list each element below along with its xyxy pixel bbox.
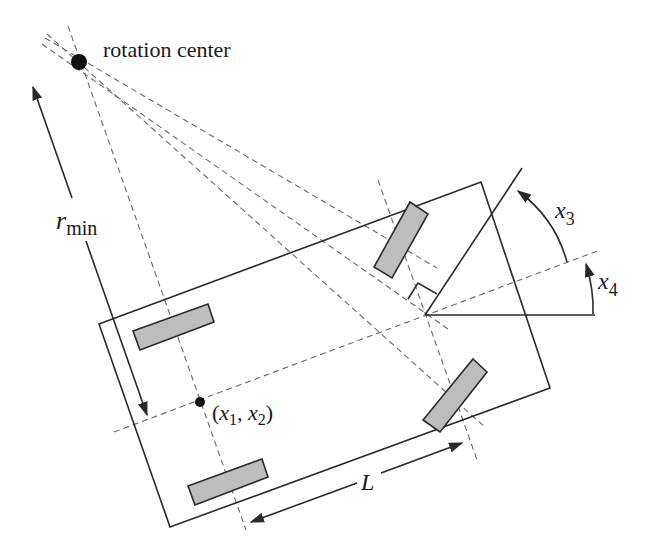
wheelbase-arrow-left	[251, 483, 357, 522]
steering-direction-line	[425, 168, 522, 315]
position-comma: ,	[237, 400, 248, 425]
position-label: (x1, x2)	[212, 400, 273, 428]
position-x2-sub: 2	[258, 411, 266, 428]
front-left-wheel-ray	[45, 38, 437, 268]
heading-angle-label: x4	[597, 268, 618, 300]
steering-angle-main: x	[554, 197, 566, 223]
position-close-paren: )	[266, 400, 273, 425]
position-x1: x	[218, 400, 229, 425]
construction-lines	[42, 26, 600, 530]
position-open-paren: (	[212, 400, 219, 425]
rotation-center-label: rotation center	[103, 37, 231, 62]
pivot-ray	[42, 44, 448, 329]
heading-angle-sub: 4	[609, 280, 618, 300]
steering-angle-label: x3	[554, 197, 575, 229]
heading-angle-arc	[586, 264, 593, 314]
r-min-label: rmin	[56, 206, 97, 239]
front-left-wheel	[374, 202, 428, 278]
position-x1-sub: 1	[229, 411, 237, 428]
wheelbase-arrow-right	[381, 443, 462, 473]
rotation-center-point	[71, 54, 87, 70]
wheels	[133, 202, 487, 505]
wheelbase-label: L	[360, 469, 374, 495]
front-right-wheel-ray	[47, 34, 486, 428]
car-body	[99, 182, 550, 527]
rear-right-wheel	[188, 459, 268, 505]
front-right-wheel	[423, 359, 487, 432]
position-x2: x	[247, 400, 258, 425]
rear-axle-line	[68, 26, 246, 530]
r-min-subscript: min	[66, 217, 97, 239]
reference-point	[195, 397, 205, 407]
body-axis-line	[114, 250, 600, 432]
r-min-arrow-down	[86, 241, 147, 415]
r-min-arrow-up	[33, 87, 72, 198]
right-angle-marker	[408, 283, 437, 299]
heading-angle-main: x	[597, 268, 609, 294]
kinematic-diagram: rotation center rmin (x1, x2) L x3 x4	[0, 0, 656, 557]
rear-left-wheel	[133, 304, 214, 350]
steering-angle-sub: 3	[566, 209, 575, 229]
